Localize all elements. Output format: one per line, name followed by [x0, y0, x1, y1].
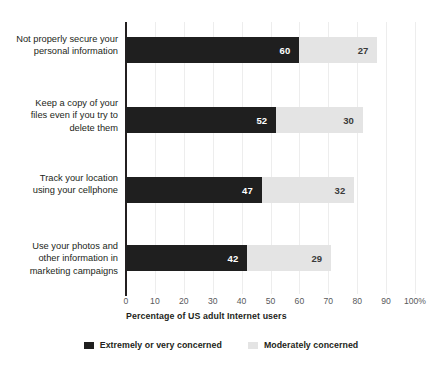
bar-segment-extremely-very-concerned: 60 — [126, 37, 299, 63]
x-tick-label: 20 — [179, 296, 189, 306]
bar-row: 6027 — [0, 37, 442, 63]
stacked-bar-chart: Not properly secure yourpersonal informa… — [0, 0, 442, 368]
x-tick-label: 30 — [208, 296, 218, 306]
x-tick-label: 40 — [237, 296, 247, 306]
bar-value-label: 32 — [335, 185, 346, 196]
x-tick-label: 90 — [381, 296, 391, 306]
x-tick-label: 80 — [352, 296, 362, 306]
x-tick-label: 0 — [124, 296, 129, 306]
bar-segment-moderately-concerned: 30 — [276, 107, 363, 133]
x-tick-label: 100% — [404, 296, 426, 306]
legend-label: Extremely or very concerned — [100, 340, 222, 350]
bar-segment-moderately-concerned: 29 — [247, 245, 331, 271]
bar-row: 4732 — [0, 177, 442, 203]
legend-label: Moderately concerned — [264, 340, 358, 350]
legend-item[interactable]: Moderately concerned — [248, 340, 358, 350]
bar-value-label: 52 — [256, 115, 267, 126]
bar-value-label: 47 — [242, 185, 253, 196]
bar-row: 4229 — [0, 245, 442, 271]
bar-value-label: 29 — [311, 253, 322, 264]
bar-segment-moderately-concerned: 32 — [262, 177, 354, 203]
bar-segment-extremely-very-concerned: 52 — [126, 107, 276, 133]
bar-value-label: 30 — [343, 115, 354, 126]
bar-value-label: 60 — [280, 45, 291, 56]
bar-value-label: 27 — [358, 45, 369, 56]
x-tick-label: 70 — [324, 296, 334, 306]
bar-value-label: 42 — [228, 253, 239, 264]
bar-segment-extremely-very-concerned: 47 — [126, 177, 262, 203]
legend-swatch-dark — [84, 342, 94, 349]
bar-segment-moderately-concerned: 27 — [299, 37, 377, 63]
bar-segment-extremely-very-concerned: 42 — [126, 245, 247, 271]
x-tick-label: 50 — [266, 296, 276, 306]
legend-item[interactable]: Extremely or very concerned — [84, 340, 222, 350]
x-axis-title: Percentage of US adult Internet users — [126, 311, 287, 321]
x-tick-label: 10 — [150, 296, 160, 306]
legend-swatch-light — [248, 342, 258, 349]
chart-legend: Extremely or very concernedModerately co… — [0, 340, 442, 350]
x-tick-label: 60 — [295, 296, 305, 306]
bar-row: 5230 — [0, 107, 442, 133]
